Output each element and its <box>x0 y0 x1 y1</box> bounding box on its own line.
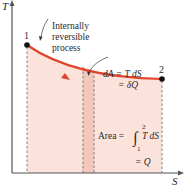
area-label-integrand: T dS <box>142 131 159 141</box>
state-point-1 <box>24 42 30 48</box>
x-axis-label: S <box>172 175 178 186</box>
x-axis-arrow-icon <box>178 171 184 176</box>
process-label-line1: Internally <box>52 21 89 31</box>
process-leader-arrow-icon <box>39 36 43 41</box>
y-axis-arrow-icon <box>10 0 15 6</box>
ts-diagram: T S 1 2 Internally reversible process dA… <box>0 0 185 186</box>
area-label-prefix: Area = <box>98 131 124 141</box>
y-axis-label: T <box>2 0 9 12</box>
point-1-label: 1 <box>24 30 29 41</box>
point-2-label: 2 <box>159 64 164 75</box>
area-label-upper: 2 <box>142 123 146 131</box>
area-label-lower: 1 <box>137 145 141 153</box>
process-leader-line <box>41 19 48 38</box>
differential-strip <box>83 67 94 173</box>
area-under-curve <box>27 45 162 173</box>
area-label-line2: = Q <box>135 157 151 167</box>
differential-label-line1: dA = T dS <box>103 69 142 79</box>
process-label-line3: process <box>52 43 81 53</box>
process-label-line2: reversible <box>52 32 89 42</box>
differential-label-line2: = δQ <box>118 80 138 90</box>
state-point-2 <box>159 76 165 82</box>
